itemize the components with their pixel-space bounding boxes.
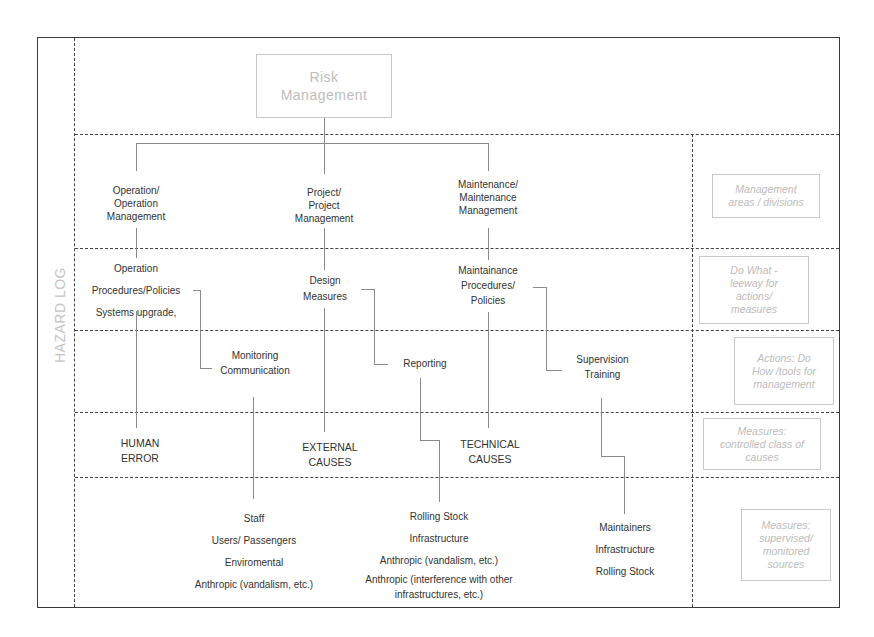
node-reporting: Reporting: [390, 357, 460, 370]
node-maintenance-procedures: Maintainance Procedures/ Policies: [443, 263, 533, 308]
connector: [136, 143, 137, 171]
row-divider-4: [75, 412, 839, 413]
node-project-management: Project/ Project Management: [284, 186, 364, 225]
node-operation-management: Operation/ Operation Management: [96, 184, 176, 223]
connector: [533, 287, 547, 288]
connector: [488, 143, 489, 171]
legend-column-divider: [692, 134, 693, 607]
legend-do-what: Do What - leeway for actions/ measures: [699, 256, 809, 324]
connector: [136, 311, 137, 428]
hazard-log-label: HAZARD LOG: [40, 260, 80, 370]
connector: [324, 118, 325, 174]
connector: [624, 456, 625, 514]
connector: [324, 308, 325, 432]
connector: [200, 290, 201, 368]
legend-controlled-causes: Measures: controlled class of causes: [703, 418, 821, 470]
connector: [136, 143, 489, 144]
row-divider-1: [75, 134, 839, 135]
connector: [546, 370, 562, 371]
risk-management-box: Risk Management: [256, 54, 392, 118]
node-external-sources: Rolling Stock Infrastructure Anthropic (…: [356, 506, 522, 602]
node-maintenance-management: Maintenance/ Maintenance Management: [443, 178, 533, 217]
legend-management-areas: Management areas / divisions: [712, 174, 820, 218]
node-operation-procedures: Operation Procedures/Policies Systems up…: [80, 258, 192, 324]
node-design-measures: Design Measures: [290, 273, 360, 305]
node-supervision-training: Supervision Training: [565, 352, 640, 382]
node-human-sources: Staff Users/ Passengers Enviromental Ant…: [180, 508, 328, 596]
legend-actions-do-how: Actions: Do How /tools for management: [734, 337, 834, 405]
node-human-error: HUMAN ERROR: [110, 436, 170, 466]
connector: [488, 312, 489, 428]
connector: [374, 364, 388, 365]
row-divider-5: [75, 477, 839, 478]
connector: [374, 289, 375, 365]
connector: [420, 378, 421, 440]
connector: [488, 228, 489, 260]
connector: [601, 456, 624, 457]
legend-supervised-sources: Measures: supervised/ monitored sources: [741, 509, 831, 581]
connector: [324, 228, 325, 270]
connector: [439, 440, 440, 502]
node-monitoring-communication: Monitoring Communication: [210, 348, 300, 378]
node-technical-causes: TECHNICAL CAUSES: [450, 437, 530, 467]
node-technical-sources: Maintainers Infrastructure Rolling Stock: [585, 517, 665, 583]
row-divider-2: [75, 248, 839, 249]
row-divider-3: [75, 330, 839, 331]
connector: [253, 397, 254, 499]
connector: [361, 289, 375, 290]
connector: [136, 228, 137, 258]
connector: [546, 287, 547, 370]
connector: [420, 440, 440, 441]
node-external-causes: EXTERNAL CAUSES: [290, 440, 370, 470]
connector: [601, 398, 602, 456]
